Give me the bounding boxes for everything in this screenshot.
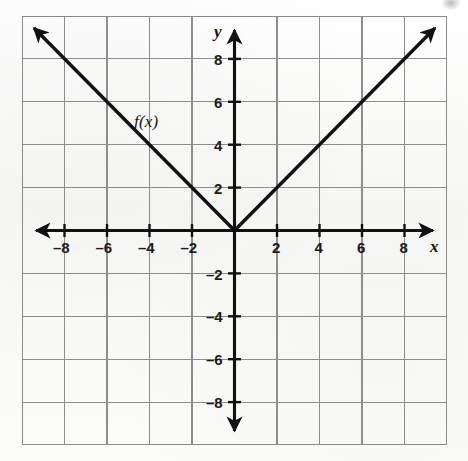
- function-label: f(x): [134, 113, 158, 130]
- y-tick-label--4: –4: [206, 309, 223, 324]
- x-tick-label--8: –8: [53, 240, 70, 255]
- y-tick-label-6: 6: [214, 95, 222, 110]
- x-tick-label-2: 2: [272, 240, 280, 255]
- x-tick-label-4: 4: [315, 240, 323, 255]
- y-tick-label-4: 4: [214, 138, 222, 153]
- curve-right-branch: [235, 28, 436, 231]
- y-tick-label-2: 2: [214, 181, 222, 196]
- y-tick-label--2: –2: [206, 267, 223, 282]
- scan-smudge-artifact: [442, 0, 460, 10]
- function-curve: [22, 16, 447, 445]
- x-tick-label-8: 8: [400, 240, 408, 255]
- y-axis-label: y: [214, 23, 222, 40]
- y-tick-label--6: –6: [206, 352, 223, 367]
- x-axis-label: x: [430, 238, 439, 255]
- x-tick-label--6: –6: [96, 240, 113, 255]
- x-tick-label-6: 6: [357, 240, 365, 255]
- plot-area: –8 –6 –4 –2 2 4 6 8 8 6 4 2 –2 –4 –6 –8 …: [22, 16, 447, 445]
- x-tick-label--2: –2: [181, 240, 198, 255]
- y-tick-label--8: –8: [206, 395, 223, 410]
- x-tick-label--4: –4: [138, 240, 155, 255]
- graph-figure: –8 –6 –4 –2 2 4 6 8 8 6 4 2 –2 –4 –6 –8 …: [0, 0, 468, 461]
- y-tick-label-8: 8: [214, 52, 222, 67]
